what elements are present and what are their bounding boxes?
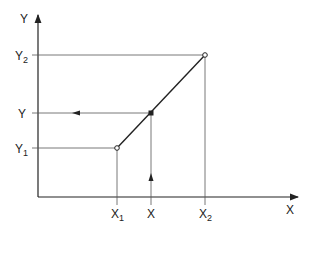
y2-label: Y2 bbox=[15, 49, 28, 65]
point-p-filled-icon bbox=[149, 111, 154, 116]
x2-label: X2 bbox=[199, 207, 212, 223]
interpolation-diagram: Y X Y2 Y Y1 X1 X X2 bbox=[0, 0, 312, 253]
y-label: Y bbox=[18, 107, 26, 121]
x1-label: X1 bbox=[111, 207, 124, 223]
up-arrow-icon bbox=[149, 173, 154, 181]
left-arrow-icon bbox=[72, 111, 80, 116]
x-label: X bbox=[147, 207, 155, 221]
point-p2-open-icon bbox=[203, 53, 208, 58]
y-axis-label: Y bbox=[20, 12, 28, 26]
y1-label: Y1 bbox=[15, 142, 28, 158]
interpolation-line bbox=[117, 55, 205, 148]
x-axis-label: X bbox=[286, 203, 294, 217]
point-p1-open-icon bbox=[115, 146, 120, 151]
